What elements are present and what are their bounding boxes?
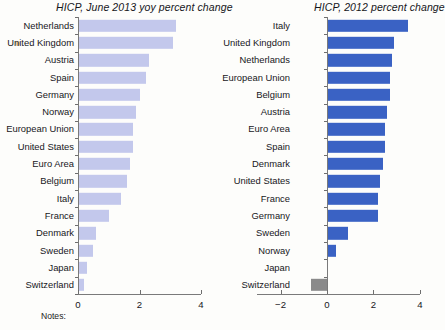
bar-row: Austria bbox=[222, 103, 443, 120]
bar bbox=[327, 123, 385, 135]
bar-category-label: Spain bbox=[0, 73, 78, 83]
bar-category-label: Germany bbox=[0, 90, 78, 100]
bar-row: Switzerland bbox=[0, 276, 222, 293]
x-axis-tick-label: 2 bbox=[137, 299, 142, 310]
bar-row: France bbox=[222, 190, 443, 207]
bar-category-label: Belgium bbox=[222, 90, 294, 100]
bar-category-label: United States bbox=[222, 176, 294, 186]
bar bbox=[78, 106, 136, 118]
bar-row: Netherlands bbox=[222, 52, 443, 69]
bar-category-label: Italy bbox=[222, 21, 294, 31]
bar-category-label: Spain bbox=[222, 142, 294, 152]
chart-title-right: HICP, 2012 percent change bbox=[314, 1, 445, 13]
bar-category-label: Norway bbox=[222, 246, 294, 256]
bar-category-label: Switzerland bbox=[222, 280, 294, 290]
bar bbox=[327, 141, 385, 153]
bar-track bbox=[294, 173, 443, 190]
bar-track bbox=[78, 173, 222, 190]
bar-track bbox=[78, 207, 222, 224]
bar bbox=[78, 244, 93, 256]
bar-row: Denmark bbox=[0, 225, 222, 242]
bar-track bbox=[294, 242, 443, 259]
bar bbox=[78, 71, 146, 83]
bar-category-label: European Union bbox=[222, 73, 294, 83]
bar-category-label: Austria bbox=[222, 107, 294, 117]
bar-category-label: Sweden bbox=[0, 246, 78, 256]
bar bbox=[78, 279, 84, 291]
bar bbox=[78, 123, 133, 135]
bar-track bbox=[78, 190, 222, 207]
x-axis-tick-label: 4 bbox=[417, 299, 422, 310]
bar-category-label: Japan bbox=[222, 263, 294, 273]
bar-row: Germany bbox=[222, 207, 443, 224]
bar-category-label: United Kingdom bbox=[222, 38, 294, 48]
bar-track bbox=[294, 69, 443, 86]
bar bbox=[78, 141, 133, 153]
bar-row: Euro Area bbox=[0, 155, 222, 172]
x-axis-tick-label: 2 bbox=[371, 299, 376, 310]
bar-track bbox=[294, 86, 443, 103]
bar-track bbox=[294, 276, 443, 293]
bar-track bbox=[294, 138, 443, 155]
bar-category-label: Euro Area bbox=[222, 124, 294, 134]
bar-category-label: Euro Area bbox=[0, 159, 78, 169]
bar bbox=[327, 158, 383, 170]
bar-row: Japan bbox=[0, 259, 222, 276]
bar-category-label: Denmark bbox=[0, 228, 78, 238]
bar-category-label: Switzerland bbox=[0, 280, 78, 290]
bar-category-label: Denmark bbox=[222, 159, 294, 169]
bar bbox=[327, 175, 380, 187]
bar bbox=[78, 175, 127, 187]
bar bbox=[327, 106, 387, 118]
bar-track bbox=[78, 34, 222, 51]
bar-category-label: Norway bbox=[0, 107, 78, 117]
bar-track bbox=[294, 225, 443, 242]
bar-track bbox=[78, 138, 222, 155]
bar bbox=[327, 244, 336, 256]
chart-panel-left: HICP, June 2013 yoy percent change Nethe… bbox=[0, 0, 222, 330]
bar bbox=[327, 89, 390, 101]
bar-row: Belgium bbox=[222, 86, 443, 103]
bar-track bbox=[294, 155, 443, 172]
bar bbox=[78, 19, 176, 31]
bar-row: Denmark bbox=[222, 155, 443, 172]
bar-track bbox=[294, 190, 443, 207]
bar bbox=[78, 227, 96, 239]
bar-category-label: United States bbox=[0, 142, 78, 152]
bar-category-label: Italy bbox=[0, 194, 78, 204]
bar-track bbox=[294, 52, 443, 69]
bar-row: Japan bbox=[222, 259, 443, 276]
bar-track bbox=[294, 121, 443, 138]
bar-row: Norway bbox=[0, 103, 222, 120]
bar bbox=[327, 192, 378, 204]
bar-row: Belgium bbox=[0, 173, 222, 190]
bar-row: United States bbox=[222, 173, 443, 190]
bar bbox=[311, 279, 327, 291]
bar-track bbox=[78, 103, 222, 120]
plot-area-right: ItalyUnited KingdomNetherlandsEuropean U… bbox=[222, 17, 443, 295]
bar-rows-right: ItalyUnited KingdomNetherlandsEuropean U… bbox=[222, 17, 443, 295]
x-axis-tick-label: −2 bbox=[275, 299, 286, 310]
bar-row: Netherlands bbox=[0, 17, 222, 34]
bar bbox=[327, 71, 390, 83]
bar bbox=[327, 37, 394, 49]
bar-category-label: Belgium bbox=[0, 176, 78, 186]
bar bbox=[78, 192, 121, 204]
bar bbox=[327, 54, 392, 66]
bar-category-label: Netherlands bbox=[222, 55, 294, 65]
bar bbox=[78, 210, 109, 222]
bar bbox=[78, 37, 173, 49]
bar-track bbox=[294, 207, 443, 224]
bar-row: Switzerland bbox=[222, 276, 443, 293]
bar bbox=[327, 210, 378, 222]
bar-row: United Kingdom bbox=[0, 34, 222, 51]
bar-track bbox=[78, 242, 222, 259]
x-axis-tick-label: 4 bbox=[198, 299, 203, 310]
bar bbox=[78, 158, 130, 170]
x-axis-tick-label: 0 bbox=[324, 299, 329, 310]
bar bbox=[78, 54, 149, 66]
bar-row: Sweden bbox=[222, 225, 443, 242]
bar-track bbox=[78, 155, 222, 172]
bar-row: Spain bbox=[0, 69, 222, 86]
